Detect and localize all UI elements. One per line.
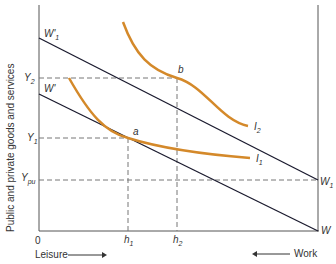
leisure-arrow-icon: [68, 252, 107, 258]
y-axis-title: Public and private goods and services: [5, 64, 16, 232]
label-y2: Y2: [24, 72, 35, 85]
label-h2: h2: [173, 234, 183, 247]
indifference-curve-i2: [123, 22, 248, 126]
x-axis-work-label: Work: [294, 248, 318, 259]
label-origin: 0: [35, 235, 41, 246]
label-ypu: Ypu: [21, 172, 36, 186]
dashed-guides: [39, 78, 318, 231]
label-w1: W1: [320, 176, 333, 189]
diagram-canvas: W'1 W' W1 W Y2 Y1 Ypu h1 h2 a b I1 I2 0 …: [0, 0, 336, 264]
label-w1-prime: W'1: [44, 28, 59, 41]
budget-line-w1: [39, 38, 318, 180]
budget-line-w: [39, 94, 318, 231]
label-i1: I1: [256, 153, 263, 166]
label-y1: Y1: [27, 132, 38, 145]
label-point-a: a: [133, 126, 139, 137]
indifference-curve-i1: [69, 78, 250, 158]
label-w: W: [321, 225, 332, 236]
label-point-b: b: [178, 64, 184, 75]
label-w-prime: W': [44, 83, 56, 94]
work-arrow-icon: [252, 251, 290, 257]
label-i2: I2: [254, 121, 261, 134]
label-h1: h1: [124, 234, 134, 247]
x-axis-leisure-label: Leisure: [35, 249, 68, 260]
